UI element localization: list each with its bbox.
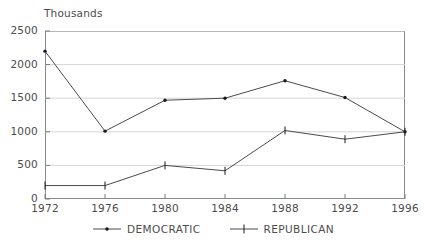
data-point-marker	[103, 129, 106, 132]
x-axis-tick-label: 1980	[142, 202, 188, 214]
legend-entry-democratic[interactable]: DEMOCRATIC	[92, 223, 200, 235]
y-gridlines	[45, 65, 405, 166]
series-markers	[43, 49, 406, 189]
data-point-marker	[343, 96, 346, 99]
x-axis-tick-label: 1988	[262, 202, 308, 214]
legend-marker-plus-icon	[229, 223, 259, 235]
legend-label-democratic: DEMOCRATIC	[127, 223, 200, 235]
line-chart: Thousands 05001000150020002500 197219761…	[0, 0, 426, 251]
x-axis-tick-label: 1996	[382, 202, 426, 214]
x-axis-ticks	[45, 194, 405, 199]
x-axis-tick-label: 1972	[22, 202, 68, 214]
x-axis-tick-label: 1992	[322, 202, 368, 214]
legend-marker-dot-icon	[92, 223, 122, 235]
x-axis-tick-label: 1976	[82, 202, 128, 214]
series-line-democratic	[45, 51, 405, 132]
data-point-marker	[163, 99, 166, 102]
y-axis-tick-label: 1000	[0, 125, 38, 137]
data-point-marker	[223, 97, 226, 100]
chart-legend: DEMOCRATIC REPUBLICAN	[0, 223, 426, 235]
y-axis-tick-label: 500	[0, 158, 38, 170]
data-point-marker	[43, 49, 46, 52]
legend-label-republican: REPUBLICAN	[264, 223, 334, 235]
y-axis-tick-label: 2500	[0, 24, 38, 36]
legend-entry-republican[interactable]: REPUBLICAN	[229, 223, 334, 235]
x-axis-tick-label: 1984	[202, 202, 248, 214]
y-axis-tick-label: 1500	[0, 91, 38, 103]
series-line-republican	[45, 130, 405, 185]
y-axis-tick-label: 2000	[0, 58, 38, 70]
data-point-marker	[283, 79, 286, 82]
